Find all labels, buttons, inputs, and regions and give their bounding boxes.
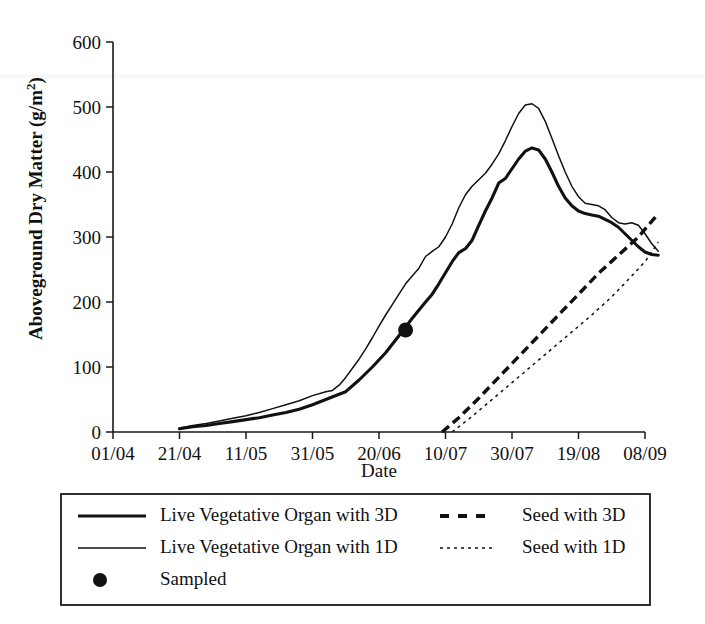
y-axis-title: Aboveground Dry Matter (g/m2): [23, 77, 47, 340]
sampled-point-marker: [398, 322, 413, 337]
x-tick-label: 30/07: [490, 443, 533, 464]
svg-text:Aboveground Dry Matter (g/m2): Aboveground Dry Matter (g/m2): [23, 77, 47, 340]
aboveground-dry-matter-chart: Aboveground Dry Matter (g/m2) 0100200300…: [0, 0, 705, 624]
x-tick-label: 19/08: [557, 443, 600, 464]
axes: [113, 42, 645, 432]
x-tick-label: 10/07: [424, 443, 467, 464]
x-tick-label: 21/04: [158, 443, 202, 464]
series-line: [442, 214, 658, 432]
legend-entry-label: Live Vegetative Organ with 1D: [160, 536, 398, 557]
plot-markers: [398, 322, 413, 337]
x-tick-label: 08/09: [623, 443, 666, 464]
y-tick-label: 300: [73, 227, 102, 248]
x-axis-title: Date: [361, 460, 397, 481]
y-tick-label: 0: [92, 422, 102, 443]
plot-series: [180, 104, 659, 432]
series-line: [180, 104, 659, 428]
legend-entry-label: Seed with 3D: [522, 504, 625, 525]
y-axis-title-text: Aboveground Dry Matter (g/m: [25, 90, 47, 340]
series-line: [180, 148, 659, 429]
x-tick-label: 01/04: [91, 443, 135, 464]
legend-swatch-sampled-dot: [93, 573, 107, 587]
legend-entry-label: Sampled: [160, 568, 227, 589]
legend-entry-label: Live Vegetative Organ with 3D: [160, 504, 398, 525]
figure-container: Aboveground Dry Matter (g/m2) 0100200300…: [0, 0, 705, 624]
series-line: [452, 242, 658, 432]
y-tick-label: 400: [73, 162, 102, 183]
legend-entry-label: Seed with 1D: [522, 536, 625, 557]
y-tick-label: 500: [73, 97, 102, 118]
x-tick-label: 11/05: [225, 443, 268, 464]
y-tick-label: 200: [73, 292, 102, 313]
x-tick-label: 31/05: [291, 443, 334, 464]
y-axis-ticks: 0100200300400500600: [73, 32, 114, 443]
y-tick-label: 600: [73, 32, 102, 53]
y-tick-label: 100: [73, 357, 102, 378]
y-axis-title-close: ): [25, 77, 47, 83]
